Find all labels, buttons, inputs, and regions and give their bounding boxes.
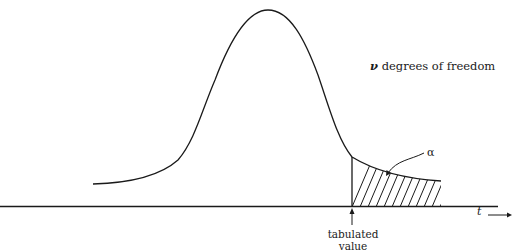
tabulated-line-1: tabulated	[322, 228, 384, 240]
tabulated-value-label: tabulated value	[322, 228, 384, 250]
alpha-hatched-region	[352, 160, 460, 207]
density-curve	[93, 10, 441, 184]
t-distribution-diagram: ν degrees of freedom α t tabulated value	[0, 0, 519, 250]
alpha-pointer-arrow-icon	[386, 153, 424, 176]
nu-symbol: ν	[370, 59, 378, 73]
t-arrow-icon	[488, 213, 512, 218]
x-axis-label: t	[477, 205, 481, 218]
degrees-of-freedom-label: ν degrees of freedom	[370, 59, 495, 73]
alpha-label: α	[427, 146, 434, 159]
dof-text: degrees of freedom	[378, 59, 495, 73]
tabulated-value-arrow-icon	[350, 208, 355, 225]
diagram-canvas	[0, 0, 519, 250]
tabulated-line-2: value	[322, 240, 384, 250]
